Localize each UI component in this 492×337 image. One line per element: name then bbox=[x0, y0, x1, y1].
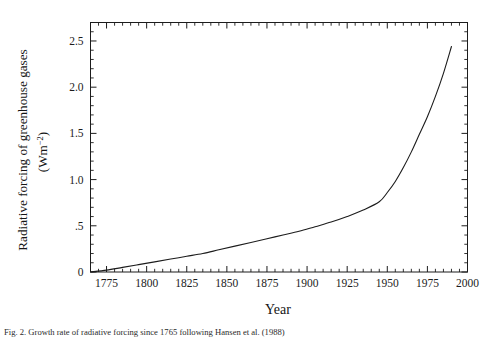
x-tick-label-1975: 1975 bbox=[416, 277, 439, 289]
y-tick-label-1p5: 1.5 bbox=[69, 127, 84, 139]
x-tick-label-1950: 1950 bbox=[376, 277, 399, 289]
y-tick-label-0: 0 bbox=[78, 266, 84, 278]
x-tick-label-1825: 1825 bbox=[175, 277, 198, 289]
x-tick-label-1800: 1800 bbox=[135, 277, 158, 289]
x-tick-label-1850: 1850 bbox=[215, 277, 238, 289]
x-tick-label-1875: 1875 bbox=[255, 277, 278, 289]
y-tick-label-1p0: 1.0 bbox=[69, 174, 84, 186]
x-tick-label-2000: 2000 bbox=[456, 277, 479, 289]
x-axis-title: Year bbox=[265, 302, 291, 317]
y-axis-unit-exponent: −2 bbox=[36, 136, 45, 145]
x-tick-label-1775: 1775 bbox=[95, 277, 118, 289]
y-axis-unit-open: (Wm bbox=[35, 144, 50, 172]
figure-caption: Fig. 2. Growth rate of radiative forcing… bbox=[4, 328, 490, 337]
x-tick-label-1925: 1925 bbox=[336, 277, 359, 289]
y-tick-label-2p5: 2.5 bbox=[69, 35, 84, 47]
y-axis-unit-close: ) bbox=[35, 132, 50, 136]
y-axis-title-line1: Radiative forcing of greenhouse gases bbox=[15, 49, 30, 250]
y-tick-label-p5: .5 bbox=[75, 220, 84, 232]
y-tick-label-2p0: 2.0 bbox=[69, 81, 84, 93]
x-tick-label-1900: 1900 bbox=[296, 277, 319, 289]
